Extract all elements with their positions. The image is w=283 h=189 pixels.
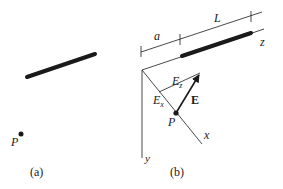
diagram-canvas: P (a) a L z y x P Ez Ex E (b) — [0, 0, 283, 189]
x-axis-label: x — [203, 128, 210, 142]
ez-label: Ez — [171, 74, 183, 90]
y-axis-label: y — [144, 152, 150, 164]
line-charge-rod-b — [182, 33, 251, 56]
panel-a: P (a) — [10, 54, 95, 179]
dimension-a-label: a — [154, 29, 160, 43]
caption-b: (b) — [170, 165, 184, 179]
caption-a: (a) — [30, 165, 43, 179]
panel-b: a L z y x P Ez Ex E (b) — [141, 11, 265, 179]
e-vector-label: E — [191, 93, 199, 107]
z-axis-label: z — [259, 35, 265, 49]
line-charge-rod — [27, 54, 95, 77]
point-p — [19, 132, 24, 137]
point-p-label-b: P — [167, 115, 176, 129]
point-p-label: P — [10, 135, 19, 149]
dimension-l-label: L — [213, 11, 221, 25]
